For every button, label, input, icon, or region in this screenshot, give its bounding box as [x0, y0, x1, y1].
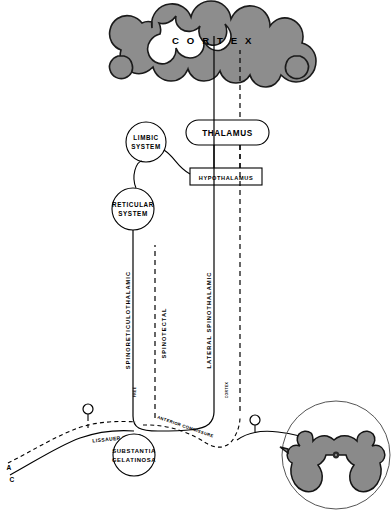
tract-small-label-left: FREE [133, 386, 137, 397]
hypothalamus-label: HYPOTHALAMUS [199, 175, 253, 181]
limbic-system-shape [126, 122, 166, 162]
diagram-canvas: C O R T E X THALAMUS HYPOTHALAMUS LIMBIC… [0, 0, 392, 525]
substantia-gelatinosa-label-line1: SUBSTANTIA [112, 448, 156, 454]
central-canal-lumen [335, 454, 337, 456]
pain-pathway-diagram: C O R T E X THALAMUS HYPOTHALAMUS LIMBIC… [0, 0, 392, 525]
thalamus-label: THALAMUS [202, 129, 253, 138]
reticular-system-node[interactable]: RETICULAR SYSTEM [112, 188, 154, 230]
limbic-system-node[interactable]: LIMBIC SYSTEM [126, 122, 166, 162]
left-receptor [83, 404, 93, 421]
reticular-system-label-line1: RETICULAR [112, 201, 154, 208]
tract-label-lateral-spinothalamic: LATERAL SPINOTHALAMIC [206, 272, 212, 369]
tract-small-label-right: CORTEX [225, 381, 229, 398]
anterior-commissure-path [143, 417, 240, 447]
substantia-gelatinosa-label-line2: GELATINOSA [112, 457, 156, 463]
limbic-hypothalamus-connector [164, 150, 190, 174]
tract-label-spinotectal: SPINOTECTAL [161, 307, 167, 358]
reticular-system-shape [112, 188, 154, 230]
fiber-label-c: C [10, 476, 15, 483]
spinal-cord-cross-section [280, 401, 390, 509]
reticular-system-label-line2: SYSTEM [118, 210, 148, 217]
cord-gray-matter-butterfly [287, 431, 385, 491]
hypothalamus-node[interactable]: HYPOTHALAMUS [190, 168, 262, 185]
cortex-label: C O R T E X [172, 35, 254, 46]
right-receptor-ending-icon [250, 415, 260, 425]
tract-label-spinoreticulothalamic: SPINORETICULOTHALAMIC [125, 271, 131, 369]
substantia-gelatinosa-node[interactable]: SUBSTANTIA GELATINOSA [112, 434, 156, 476]
cortex-group: C O R T E X [109, 1, 316, 87]
thalamus-node[interactable]: THALAMUS [186, 120, 269, 145]
cortex-right-temporal-lobe [285, 56, 308, 79]
left-receptor-ending-icon [83, 404, 93, 414]
cortex-left-temporal-lobe [109, 56, 132, 79]
limbic-system-label-line2: SYSTEM [131, 143, 161, 150]
reticular-limbic-connector [134, 161, 142, 188]
cord-dorsal-root-nub [280, 447, 288, 453]
fiber-label-a: A [7, 464, 12, 471]
limbic-system-label-line1: LIMBIC [133, 134, 158, 141]
substantia-gelatinosa-shape [113, 434, 155, 476]
